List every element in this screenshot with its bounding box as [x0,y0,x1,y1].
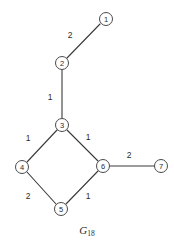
node-label: 3 [60,121,64,130]
edge-weight-label: 1 [48,92,53,102]
graph-node: 1 [100,13,113,26]
node-label: 6 [101,162,105,171]
node-label: 7 [159,162,163,171]
node-label: 1 [104,15,108,24]
figure-caption: G18 [0,224,174,238]
graph-edge [27,130,57,162]
graph-canvas: 2111212 1234567 [0,0,174,248]
edges-group [27,24,155,204]
edge-weight-label: 1 [86,191,91,201]
caption-subscript: 18 [87,229,95,238]
node-label: 5 [59,205,63,214]
graph-node: 4 [16,161,29,174]
edge-weight-label: 2 [68,30,73,40]
graph-node: 3 [56,119,69,132]
graph-node: 7 [155,160,168,173]
edge-weight-label: 1 [86,132,91,142]
graph-node: 5 [55,203,68,216]
node-label: 2 [60,59,64,68]
edge-weight-label: 2 [26,191,31,201]
edge-weight-label: 2 [127,150,132,160]
graph-node: 2 [56,57,69,70]
graph-figure: 2111212 1234567 G18 [0,0,174,248]
graph-edge [27,172,56,204]
graph-edge [66,171,98,204]
node-label: 4 [20,163,24,172]
graph-edge [67,130,98,161]
graph-node: 6 [97,160,110,173]
edge-weights-group: 2111212 [26,30,132,201]
edge-weight-label: 1 [26,133,31,143]
